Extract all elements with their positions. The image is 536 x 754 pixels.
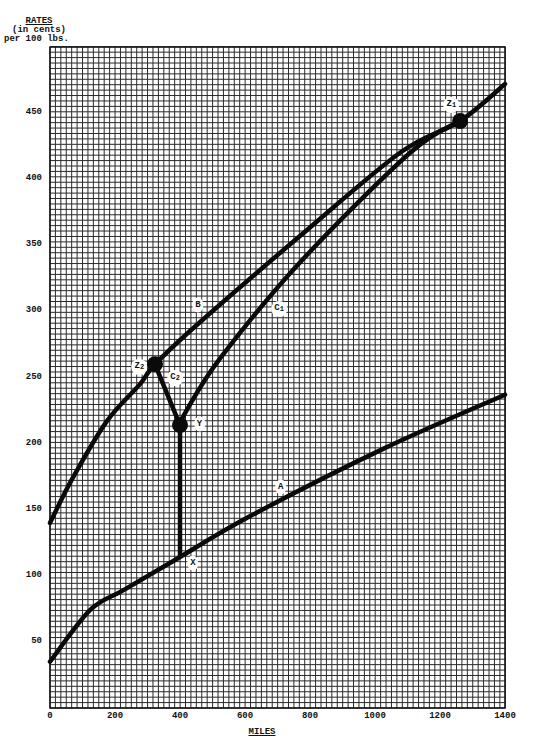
x-tick-label: 1400 <box>494 711 516 721</box>
plot-area <box>0 0 536 754</box>
y-tick-label: 300 <box>2 305 42 315</box>
marker-z2 <box>147 356 163 372</box>
grid <box>50 47 505 708</box>
y-tick-label: 50 <box>2 636 42 646</box>
y-tick-label: 200 <box>2 438 42 448</box>
y-tick-label: 150 <box>2 504 42 514</box>
y-tick-label: 100 <box>2 570 42 580</box>
x-tick-label: 1000 <box>364 711 386 721</box>
x-tick-label: 800 <box>302 711 318 721</box>
y-tick-label: 400 <box>2 173 42 183</box>
curve-label: C1 <box>271 301 287 317</box>
x-tick-label: 400 <box>172 711 188 721</box>
x-axis-title: MILES <box>248 727 275 737</box>
y-tick-label: 450 <box>2 107 42 117</box>
curve-label: Z2 <box>132 359 148 375</box>
x-tick-label: 1200 <box>429 711 451 721</box>
y-tick-label: 250 <box>2 372 42 382</box>
x-tick-label: 0 <box>47 711 52 721</box>
marker-z1 <box>452 113 468 129</box>
curve-label: C2 <box>167 370 183 386</box>
curve-label: Z1 <box>444 97 460 113</box>
x-tick-label: 200 <box>107 711 123 721</box>
y-tick-label: 350 <box>2 239 42 249</box>
marker-y <box>172 417 188 433</box>
x-tick-label: 600 <box>237 711 253 721</box>
